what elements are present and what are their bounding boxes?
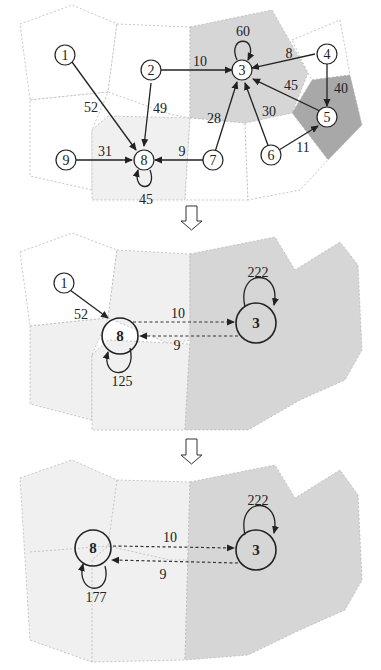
edge-label: 52 bbox=[74, 307, 88, 322]
edge-label: 125 bbox=[112, 374, 133, 389]
region-merged-3 bbox=[185, 465, 362, 660]
node-label: 7 bbox=[210, 153, 217, 168]
edge-label: 30 bbox=[262, 104, 276, 119]
edge-label: 10 bbox=[193, 54, 207, 69]
edge-label: 28 bbox=[207, 111, 221, 126]
graph-node-4[interactable]: 4 bbox=[317, 44, 337, 64]
panel-final-graph: 10 9 222 177 8 3 bbox=[20, 460, 362, 662]
edge-label: 177 bbox=[86, 590, 107, 605]
node-label: 1 bbox=[62, 48, 69, 63]
edge-label: 31 bbox=[98, 144, 112, 159]
graph-node-3[interactable]: 3 bbox=[232, 60, 252, 80]
down-arrow-icon bbox=[181, 206, 202, 230]
node-label: 1 bbox=[61, 276, 68, 291]
edge-label: 40 bbox=[334, 81, 348, 96]
node-label: 3 bbox=[252, 542, 260, 558]
panel-initial-graph: 52 49 10 60 8 40 45 30 11 28 9 31 45 1 2… bbox=[20, 5, 362, 207]
edge-label: 9 bbox=[179, 144, 186, 159]
edge-label: 222 bbox=[248, 493, 269, 508]
graph-node-8[interactable]: 8 bbox=[134, 150, 154, 170]
edge-label: 10 bbox=[163, 530, 177, 545]
graph-node-5[interactable]: 5 bbox=[317, 107, 337, 127]
graph-node-1[interactable]: 1 bbox=[55, 45, 75, 65]
node-label: 4 bbox=[324, 47, 331, 62]
edge-label: 9 bbox=[174, 338, 181, 353]
edge-label: 45 bbox=[284, 78, 298, 93]
region-d bbox=[92, 340, 190, 430]
edge-label: 9 bbox=[160, 567, 167, 582]
graph-node-6[interactable]: 6 bbox=[261, 145, 281, 165]
edge-label: 49 bbox=[153, 101, 167, 116]
node-label: 6 bbox=[268, 148, 275, 163]
node-label: 8 bbox=[89, 540, 97, 556]
node-label: 2 bbox=[148, 63, 155, 78]
graph-node-2[interactable]: 2 bbox=[141, 60, 161, 80]
diagram-canvas: 52 49 10 60 8 40 45 30 11 28 9 31 45 1 2… bbox=[0, 0, 381, 670]
edge-label: 52 bbox=[84, 100, 98, 115]
down-arrow-icon bbox=[181, 439, 202, 464]
node-label: 5 bbox=[324, 110, 331, 125]
node-label: 3 bbox=[252, 315, 260, 331]
graph-node-9[interactable]: 9 bbox=[56, 150, 76, 170]
edge-label: 60 bbox=[236, 24, 250, 39]
node-label: 3 bbox=[239, 63, 246, 78]
graph-node-1[interactable]: 1 bbox=[54, 273, 74, 293]
edge-label: 8 bbox=[286, 46, 293, 61]
node-label: 8 bbox=[141, 153, 148, 168]
node-label: 8 bbox=[116, 328, 124, 344]
graph-node-7[interactable]: 7 bbox=[203, 150, 223, 170]
edge-label: 222 bbox=[248, 265, 269, 280]
node-label: 9 bbox=[63, 153, 70, 168]
panel-intermediate-graph: 52 10 9 222 125 1 8 3 bbox=[20, 233, 362, 430]
edge-label: 45 bbox=[139, 192, 153, 207]
edge-label: 10 bbox=[171, 306, 185, 321]
edge-label: 11 bbox=[296, 140, 309, 155]
